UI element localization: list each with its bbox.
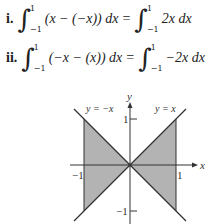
y-axis-arrow-icon (128, 102, 133, 108)
x-axis-arrow-icon (192, 163, 198, 168)
tick-label-x-neg1: −1 (72, 169, 84, 181)
graph: x y y = −x y = x −1 1 1 −1 (0, 0, 208, 224)
line1-label: y = −x (85, 103, 114, 114)
y-axis-label: y (126, 90, 132, 102)
tick-label-x-1: 1 (177, 169, 183, 181)
tick-label-y-neg1: −1 (116, 205, 128, 217)
x-axis-label: x (199, 159, 205, 171)
tick-label-y-1: 1 (123, 113, 129, 125)
origin-point (129, 164, 132, 167)
line2-label: y = x (154, 103, 176, 114)
